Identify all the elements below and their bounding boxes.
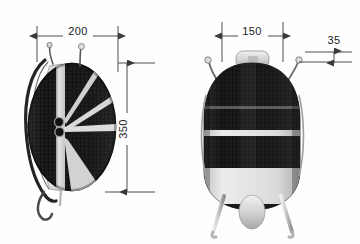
front-view-group xyxy=(198,51,308,237)
dim-150-label: 150 xyxy=(242,25,261,37)
dim-350-label: 350 xyxy=(117,119,129,138)
side-rod-left-tip xyxy=(47,42,52,47)
side-rod-right xyxy=(80,48,81,66)
front-center-highlight xyxy=(240,60,256,216)
front-shade-right xyxy=(292,60,308,216)
front-foot-left xyxy=(212,232,216,237)
side-leg-stub xyxy=(60,190,61,206)
dim-35-label: 35 xyxy=(328,34,341,46)
front-bottom-bulge xyxy=(239,195,265,229)
dim-200-label: 200 xyxy=(68,25,87,37)
front-leg-left xyxy=(213,196,224,232)
hub-fitting-lower xyxy=(55,127,64,136)
front-foot-right xyxy=(289,232,293,237)
front-shade-left xyxy=(198,60,210,216)
front-leg-right xyxy=(281,196,292,232)
hub-fitting-upper xyxy=(54,117,63,126)
dimension-35: 35 xyxy=(299,33,352,63)
drawing-canvas: 200 350 150 35 xyxy=(0,0,360,244)
technical-drawing: 200 350 150 35 xyxy=(0,0,360,244)
side-rod-right-tip xyxy=(79,44,85,50)
side-rod-left xyxy=(50,46,53,64)
side-view-group xyxy=(26,42,118,219)
front-rod-left-tip xyxy=(205,57,211,63)
